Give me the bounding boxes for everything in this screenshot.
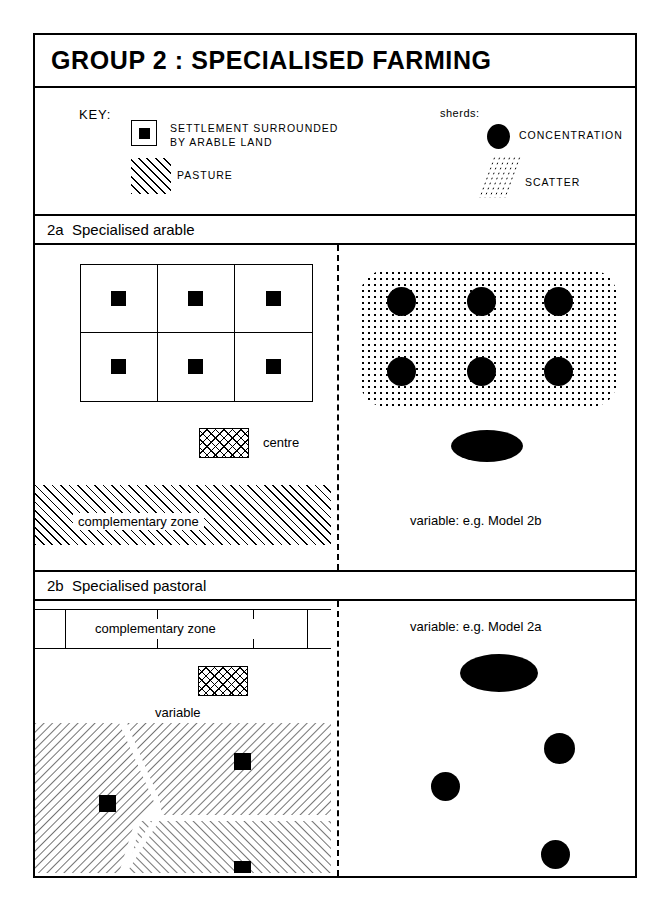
sherd-concentration-dot [544,287,573,316]
settlement-square-icon [234,753,251,770]
settlement-square-icon [188,291,203,306]
title-band: GROUP 2 : SPECIALISED FARMING [35,35,635,88]
sherd-concentration-dot [544,733,575,764]
panel-divider-2b [337,601,339,876]
sherd-concentration-dot [544,357,573,386]
settlement-square-icon [111,359,126,374]
section-2b-header: 2b Specialised pastoral [35,572,635,601]
key-scatter-label: SCATTER [525,176,580,188]
band-divider [65,610,66,648]
complementary-zone-label: complementary zone [95,621,216,636]
variable-model-label-2a: variable: e.g. Model 2b [410,513,542,528]
complementary-zone-label: complementary zone [73,513,204,530]
territory-cell [235,265,312,333]
variable-label: variable [155,705,201,720]
territory-southeast [127,821,331,873]
centre-crosshatch-box [199,428,249,458]
concentration-symbol-icon [487,124,510,149]
panel-divider-2a [337,245,339,570]
sherd-concentration-dot [467,357,496,386]
territory-cell [158,333,235,401]
band-tick [253,610,254,619]
section-2a-label: 2a Specialised arable [47,221,195,238]
pasture-territory-svg [35,723,331,873]
variable-model-label-2b: variable: e.g. Model 2a [410,619,542,634]
settlement-square-icon [234,861,251,873]
band-tick [253,639,254,648]
territory-cell [235,333,312,401]
centre-crosshatch-box [198,666,248,696]
territory-cell [81,333,158,401]
band-tick [157,639,158,648]
sherd-concentration-dot [387,287,416,316]
sherd-large-concentration [451,430,523,462]
pasture-territories-region [35,723,331,873]
section-2a-panel: centre complementary zone variable: e.g.… [35,245,635,572]
settlement-square-icon [266,359,281,374]
band-tick [157,610,158,619]
settlement-symbol-icon [131,120,157,146]
sherd-concentration-dot [467,287,496,316]
section-2b-panel: complementary zone variable [35,601,635,876]
section-2a-header: 2a Specialised arable [35,216,635,245]
arable-territory-grid [80,264,313,402]
key-settlement-label: SETTLEMENT SURROUNDED BY ARABLE LAND [170,121,338,149]
sherd-concentration-dot [431,772,460,801]
key-legend-band: KEY: SETTLEMENT SURROUNDED BY ARABLE LAN… [35,88,635,216]
settlement-square-icon [266,291,281,306]
settlement-square-icon [111,291,126,306]
key-pasture-label: PASTURE [177,169,233,181]
territory-cell [81,265,158,333]
sherd-large-concentration [460,654,538,692]
territory-cell [158,265,235,333]
band-divider [307,610,308,648]
page-title: GROUP 2 : SPECIALISED FARMING [51,46,492,75]
sherds-heading: sherds: [440,107,480,119]
pasture-hatch-icon [131,158,171,194]
centre-label: centre [263,435,299,450]
sherd-concentration-dot [387,357,416,386]
settlement-square-icon [188,359,203,374]
diagram-frame: GROUP 2 : SPECIALISED FARMING KEY: SETTL… [33,33,637,878]
key-heading: KEY: [79,107,111,122]
section-2b-label: 2b Specialised pastoral [47,577,206,594]
sherd-concentration-dot [541,840,570,869]
key-concentration-label: CONCENTRATION [519,129,623,141]
scatter-stipple-icon [477,156,522,198]
settlement-square-icon [99,795,116,812]
